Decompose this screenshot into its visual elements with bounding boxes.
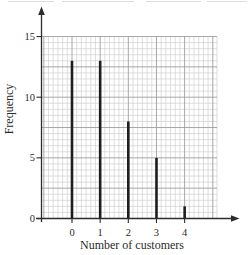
x-tick-label: 2 [126, 227, 131, 238]
x-tick-label: 0 [69, 227, 74, 238]
frequency-bar-chart-figure: 05101501234 Number of customers Frequenc… [0, 0, 251, 255]
y-tick-label: 10 [25, 92, 36, 103]
x-tick-label: 1 [98, 227, 103, 238]
bar-chart-canvas: 05101501234 Number of customers Frequenc… [0, 0, 251, 255]
y-axis-title: Frequency [2, 84, 16, 135]
x-axis-arrow [231, 215, 240, 222]
y-tick-label: 15 [25, 31, 36, 42]
tick-marks [37, 37, 185, 223]
x-axis-title: Number of customers [80, 238, 184, 252]
y-axis-arrow [38, 7, 45, 16]
x-tick-label: 4 [182, 227, 188, 238]
y-tick-label: 5 [30, 152, 35, 163]
x-tick-label: 3 [154, 227, 159, 238]
y-tick-label: 0 [30, 213, 35, 224]
